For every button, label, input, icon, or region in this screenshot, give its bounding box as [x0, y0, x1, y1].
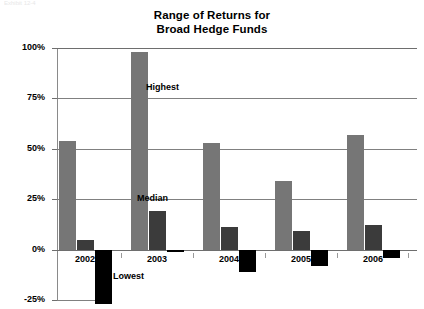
y-tick-100 — [52, 48, 57, 49]
annotation-median: Median — [137, 193, 168, 203]
category-label-2003: 2003 — [137, 254, 177, 264]
category-label-2005: 2005 — [281, 254, 321, 264]
bar-2003-median — [149, 211, 166, 250]
annotation-highest: Highest — [146, 82, 179, 92]
bar-2006-median — [365, 225, 382, 250]
bar-2002-median — [77, 240, 94, 250]
y-axis-label-100: 100% — [0, 43, 45, 52]
y-axis-label-0: 0% — [0, 245, 45, 254]
bar-2006-highest — [347, 135, 364, 250]
category-label-2006: 2006 — [353, 254, 393, 264]
x-tick-3 — [265, 253, 266, 258]
y-tick--25 — [52, 300, 57, 301]
gridline-75 — [57, 98, 417, 99]
y-axis-line — [57, 48, 58, 300]
cropped-header-artifact: Exhibit 12-4 — [4, 0, 56, 7]
x-tick-end — [408, 253, 409, 258]
category-label-2002: 2002 — [65, 254, 105, 264]
bar-2003-lowest — [167, 250, 184, 252]
plot-area: 100%75%50%25%0%-25% 20022003200420052006… — [57, 48, 417, 300]
y-axis-label-75: 75% — [0, 93, 45, 102]
bar-2004-highest — [203, 143, 220, 250]
gridline-100 — [57, 48, 417, 49]
y-tick-50 — [52, 149, 57, 150]
x-tick-1 — [121, 253, 122, 258]
bar-2002-highest — [59, 141, 76, 250]
x-tick-2 — [193, 253, 194, 258]
bar-2004-median — [221, 227, 238, 250]
bar-2005-median — [293, 231, 310, 250]
y-axis-label-minus25: -25% — [0, 295, 45, 304]
bar-2005-highest — [275, 181, 292, 250]
y-tick-0 — [52, 250, 57, 251]
y-tick-75 — [52, 98, 57, 99]
annotation-lowest: Lowest — [113, 271, 144, 281]
chart-title-line-1: Range of Returns for — [0, 9, 424, 23]
category-label-2004: 2004 — [209, 254, 249, 264]
chart-title: Range of Returns for Broad Hedge Funds — [0, 9, 424, 36]
chart-title-line-2: Broad Hedge Funds — [0, 23, 424, 37]
y-axis-label-50: 50% — [0, 144, 45, 153]
y-axis-label-25: 25% — [0, 194, 45, 203]
x-tick-4 — [337, 253, 338, 258]
y-tick-25 — [52, 199, 57, 200]
